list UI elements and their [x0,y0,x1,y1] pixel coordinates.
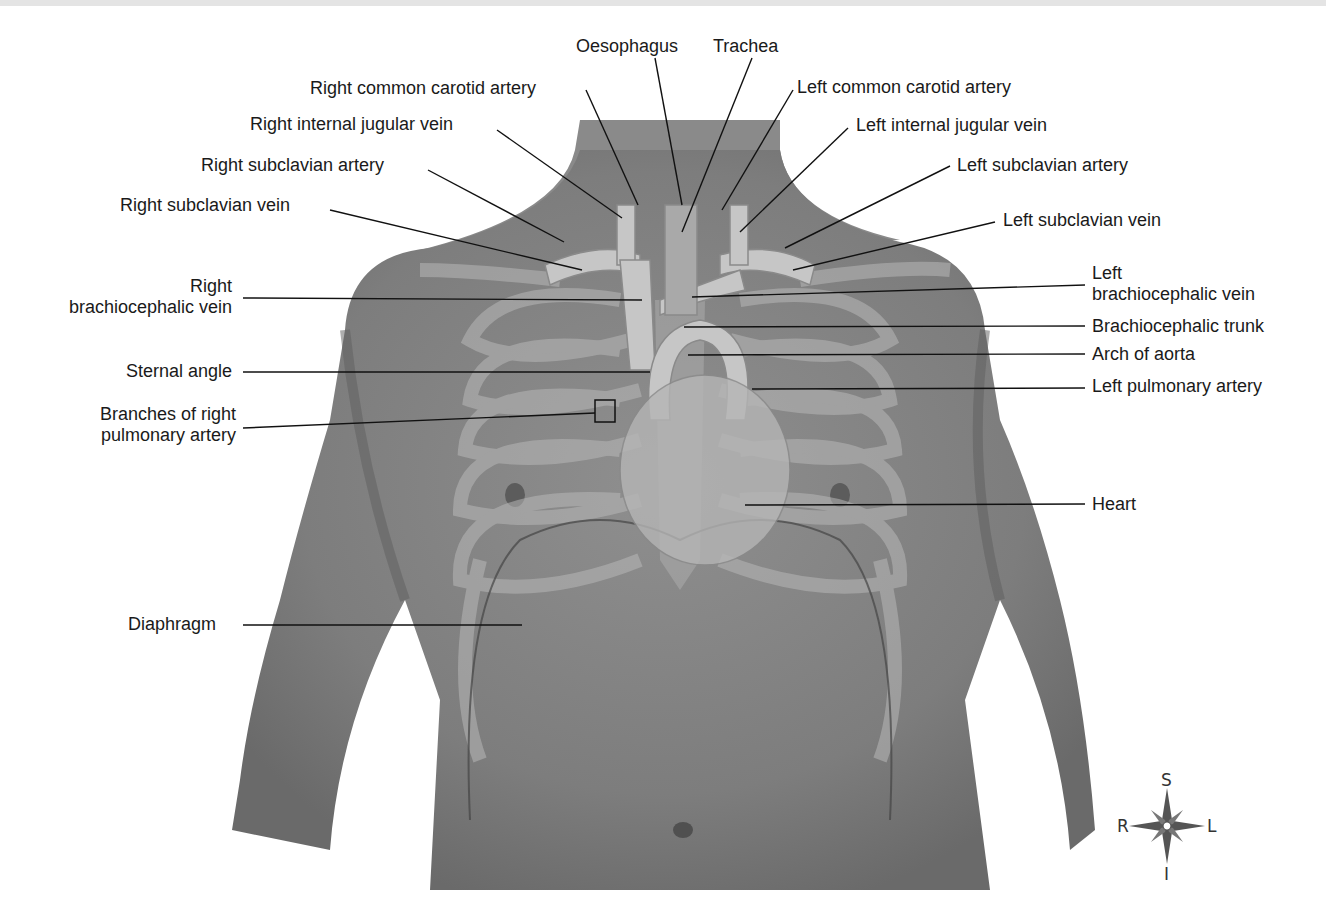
label-right-subclavian-artery: Right subclavian artery [201,155,384,176]
label-diaphragm: Diaphragm [128,614,216,635]
label-branches-right-pulmonary-artery: Branches of right pulmonary artery [40,404,236,446]
label-line: brachiocephalic vein [60,297,232,318]
label-right-common-carotid-artery: Right common carotid artery [310,78,536,99]
left-jugular-shape [730,205,748,265]
label-left-brachiocephalic-vein: Left brachiocephalic vein [1092,263,1255,305]
label-oesophagus: Oesophagus [576,36,678,57]
compass-rose-icon [1129,788,1205,864]
label-right-subclavian-vein: Right subclavian vein [120,195,290,216]
thorax-illustration [0,0,1326,917]
label-heart: Heart [1092,494,1136,515]
label-right-internal-jugular-vein: Right internal jugular vein [250,114,453,135]
label-brachiocephalic-trunk: Brachiocephalic trunk [1092,316,1264,337]
label-line: pulmonary artery [40,425,236,446]
label-left-subclavian-vein: Left subclavian vein [1003,210,1161,231]
navel [673,822,693,838]
label-trachea: Trachea [713,36,778,57]
label-arch-of-aorta: Arch of aorta [1092,344,1195,365]
label-left-subclavian-artery: Left subclavian artery [957,155,1128,176]
heart-shape [620,375,790,565]
label-right-brachiocephalic-vein: Right brachiocephalic vein [60,276,232,318]
label-left-common-carotid-artery: Left common carotid artery [797,77,1011,98]
label-line: Right [60,276,232,297]
label-left-pulmonary-artery: Left pulmonary artery [1092,376,1262,397]
right-jugular-shape [617,205,635,265]
compass-right-label: R [1117,816,1129,836]
trachea-shape [665,205,697,315]
compass-inferior-label: I [1164,864,1169,884]
compass-left-label: L [1207,816,1216,836]
label-line: Branches of right [40,404,236,425]
label-line: brachiocephalic vein [1092,284,1255,305]
compass-superior-label: S [1161,770,1172,790]
label-line: Left [1092,263,1255,284]
label-sternal-angle: Sternal angle [60,361,232,382]
label-left-internal-jugular-vein: Left internal jugular vein [856,115,1047,136]
